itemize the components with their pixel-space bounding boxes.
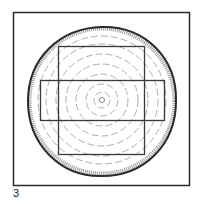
ring xyxy=(38,36,166,164)
ring xyxy=(56,54,148,146)
growth-rings xyxy=(38,36,166,164)
log-cross-section-diagram xyxy=(0,0,199,204)
ring xyxy=(86,84,118,116)
vertical-cut-outline xyxy=(59,47,145,155)
ring xyxy=(66,64,138,136)
log xyxy=(28,27,176,176)
ring xyxy=(46,44,158,156)
ring xyxy=(94,92,110,108)
bark-texture xyxy=(30,29,175,174)
ring xyxy=(76,74,128,126)
pith xyxy=(100,98,105,103)
figure-number: 3 xyxy=(13,188,19,199)
